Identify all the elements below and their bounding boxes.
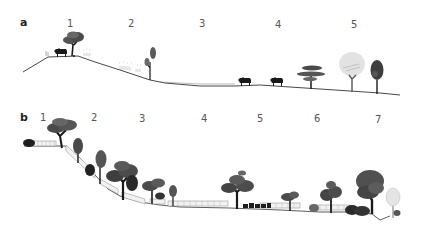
panel-b-zone-3-label: 3 bbox=[139, 113, 145, 124]
panel-a-zone-3-label: 3 bbox=[199, 18, 205, 29]
landscape-diagram: a 1 2 3 4 5 bbox=[0, 0, 421, 233]
shrub-cluster bbox=[345, 205, 370, 216]
grass-tuft bbox=[46, 51, 48, 56]
panel-b: b 1 2 3 4 5 6 7 bbox=[20, 111, 401, 220]
large-canopy-tree bbox=[106, 161, 138, 200]
pale-dead-tree bbox=[339, 52, 365, 92]
panel-a: a 1 2 3 4 5 bbox=[20, 16, 400, 95]
panel-b-zone-2-label: 2 bbox=[91, 112, 97, 123]
dark-columnar-tree bbox=[371, 60, 384, 94]
panel-b-zone-1-label: 1 bbox=[40, 112, 46, 123]
panel-a-zone-4-label: 4 bbox=[275, 19, 281, 30]
panel-a-zone-2-label: 2 bbox=[128, 18, 134, 29]
cattle-icon bbox=[238, 77, 251, 86]
panel-b-zone-6-label: 6 bbox=[314, 113, 320, 124]
cattle-icon bbox=[54, 48, 67, 57]
panel-a-zone-5-label: 5 bbox=[351, 19, 357, 30]
panel-b-zone-4-label: 4 bbox=[201, 113, 207, 124]
umbrella-tree bbox=[297, 66, 325, 90]
shrub bbox=[85, 164, 95, 176]
panel-a-label: a bbox=[20, 16, 27, 29]
grass-tufts bbox=[83, 49, 90, 56]
columnar-tree bbox=[96, 150, 107, 184]
fence-posts bbox=[38, 141, 344, 210]
cattle-icon bbox=[270, 77, 283, 86]
panel-b-label: b bbox=[20, 111, 28, 124]
shrub bbox=[23, 139, 35, 147]
panel-a-zone-1-label: 1 bbox=[67, 18, 73, 29]
panel-b-zone-7-label: 7 bbox=[375, 114, 381, 125]
pale-tree bbox=[386, 188, 401, 218]
tall-narrow-tree bbox=[145, 47, 157, 80]
shrub bbox=[309, 204, 319, 212]
panel-b-zone-5-label: 5 bbox=[257, 113, 263, 124]
